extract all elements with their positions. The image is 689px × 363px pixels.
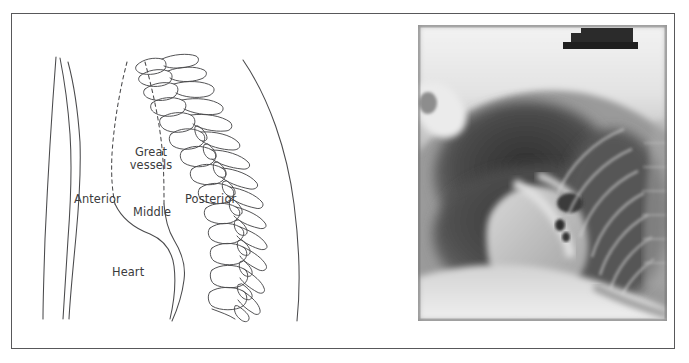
xray-side-marker [581, 28, 633, 42]
heart-anterior-border [115, 204, 175, 319]
label-great-vessels: Great vessels [125, 146, 177, 171]
sternum-inner-line [68, 62, 80, 319]
label-heart: Heart [112, 266, 144, 279]
sternum-outer-line [60, 58, 71, 319]
lateral-chest-xray [418, 25, 667, 321]
label-anterior: Anterior [74, 193, 121, 206]
label-middle: Middle [133, 206, 171, 219]
anterior-middle-divider [112, 62, 127, 204]
xray-marker-bar [563, 42, 638, 49]
medical-figure: Great vessels Anterior Middle Posterior … [0, 0, 689, 363]
diagram-linework [12, 14, 407, 348]
heart-posterior-border [164, 204, 185, 321]
xray-image [418, 25, 667, 321]
anterior-skin-line [43, 57, 56, 319]
label-posterior: Posterior [185, 193, 236, 206]
thoracic-spine [136, 54, 267, 321]
posterior-chest-wall [243, 60, 299, 321]
mediastinum-diagram: Great vessels Anterior Middle Posterior … [12, 14, 407, 348]
